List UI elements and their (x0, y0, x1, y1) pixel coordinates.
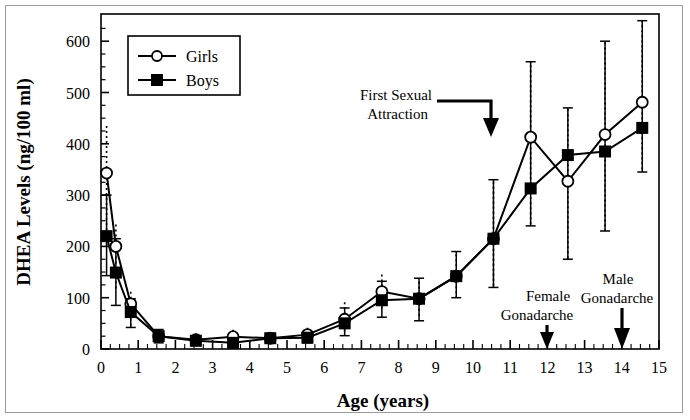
y-tick-label: 200 (66, 238, 90, 255)
data-point-girls (525, 132, 536, 143)
x-tick-label: 9 (432, 359, 440, 376)
data-point-boys (450, 270, 462, 282)
data-point-boys (125, 306, 137, 318)
y-axis-tick-labels: 0100200300400500600 (66, 33, 90, 358)
data-point-girls (637, 97, 648, 108)
y-tick-label: 300 (66, 187, 90, 204)
x-tick-label: 4 (246, 359, 254, 376)
open-circle-marker-icon (152, 51, 162, 61)
x-axis-tick-labels: 0123456789101112131415 (97, 359, 667, 376)
data-point-girls (600, 129, 611, 140)
annotation-line2-female-gonadarche: Gonadarche (501, 307, 574, 323)
data-point-boys (301, 332, 313, 344)
annotation-line2-male-gonadarche: Gonadarche (581, 290, 654, 306)
annotation-line2-first-sexual-attraction: Attraction (367, 106, 428, 122)
x-tick-label: 11 (502, 359, 517, 376)
y-tick-label: 100 (66, 290, 90, 307)
data-point-girls (562, 176, 573, 187)
x-tick-label: 6 (320, 359, 328, 376)
x-tick-label: 1 (134, 359, 142, 376)
data-point-boys (101, 230, 113, 242)
legend-label-girls: Girls (186, 48, 218, 65)
x-tick-label: 2 (171, 359, 179, 376)
y-tick-label: 400 (66, 136, 90, 153)
annotation-line1-first-sexual-attraction: First Sexual (360, 87, 432, 103)
data-point-boys (413, 293, 425, 305)
data-point-boys (190, 335, 202, 347)
x-tick-label: 10 (465, 359, 481, 376)
filled-square-marker-icon (151, 74, 163, 86)
data-point-boys (153, 330, 165, 342)
data-point-boys (487, 233, 499, 245)
data-point-girls (110, 241, 121, 252)
chart-figure: 0100200300400500600 01234567891011121314… (0, 0, 690, 420)
data-point-boys (525, 182, 537, 194)
x-tick-label: 14 (614, 359, 630, 376)
annotation-line1-male-gonadarche: Male (603, 271, 634, 287)
x-tick-label: 15 (651, 359, 667, 376)
data-point-boys (264, 332, 276, 344)
legend-label-boys: Boys (186, 72, 219, 90)
y-axis-title: DHEA Levels (ng/100 ml) (13, 78, 35, 285)
data-point-girls (101, 168, 112, 179)
chart-canvas: 0100200300400500600 01234567891011121314… (0, 0, 690, 420)
x-tick-label: 13 (577, 359, 593, 376)
y-tick-label: 600 (66, 33, 90, 50)
y-tick-label: 0 (82, 341, 90, 358)
data-point-boys (599, 145, 611, 157)
data-point-boys (110, 267, 122, 279)
x-tick-label: 3 (209, 359, 217, 376)
data-point-boys (562, 149, 574, 161)
legend[interactable]: Girls Boys (128, 36, 240, 95)
x-axis-title: Age (years) (337, 390, 429, 412)
x-tick-label: 0 (97, 359, 105, 376)
data-point-boys (376, 294, 388, 306)
data-point-boys (339, 317, 351, 329)
y-tick-label: 500 (66, 85, 90, 102)
x-tick-label: 8 (395, 359, 403, 376)
x-tick-label: 5 (283, 359, 291, 376)
data-point-boys (227, 337, 239, 349)
data-point-boys (636, 122, 648, 134)
x-tick-label: 7 (357, 359, 365, 376)
annotation-line1-female-gonadarche: Female (526, 288, 570, 304)
x-tick-label: 12 (539, 359, 555, 376)
